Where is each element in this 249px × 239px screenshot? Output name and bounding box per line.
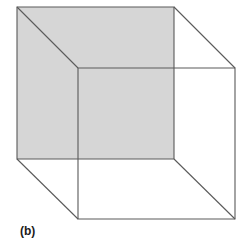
figure-container: (b) bbox=[0, 0, 249, 239]
edge-bottom-left bbox=[17, 159, 78, 219]
figure-caption-label: (b) bbox=[20, 224, 35, 238]
edge-top-right bbox=[174, 7, 235, 68]
edge-bottom-right bbox=[174, 159, 235, 219]
necker-cube-illustration bbox=[0, 0, 249, 239]
